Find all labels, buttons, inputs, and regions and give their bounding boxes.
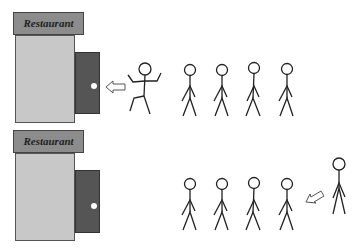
approaching-person-icon	[333, 158, 345, 214]
bottom-figures	[0, 125, 360, 250]
person-icon	[182, 65, 196, 117]
dancing-person-icon	[128, 63, 161, 114]
person-icon	[246, 63, 260, 117]
person-icon	[279, 64, 293, 117]
person-icon	[182, 179, 196, 231]
scene-bottom: Restaurant	[0, 125, 360, 250]
left-arrow-icon	[106, 81, 125, 93]
scene-top: Restaurant	[0, 0, 360, 125]
down-left-arrow-icon	[306, 191, 324, 203]
person-icon	[214, 65, 228, 117]
person-icon	[214, 179, 228, 231]
person-icon	[246, 178, 260, 231]
queue-people	[182, 178, 293, 231]
top-figures	[0, 0, 360, 125]
queue-people	[182, 63, 293, 117]
person-icon	[279, 179, 293, 231]
